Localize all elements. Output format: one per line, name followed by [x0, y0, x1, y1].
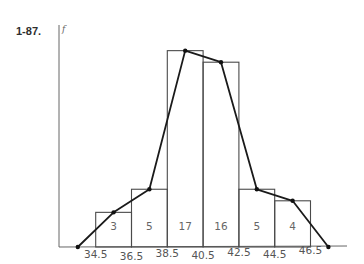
histogram-bar — [239, 189, 275, 247]
polygon-point-marker — [147, 187, 151, 191]
histogram-bar — [167, 51, 203, 247]
polygon-point-marker — [111, 210, 115, 214]
x-tick-label: 38.5 — [156, 247, 179, 259]
polygon-point-marker — [183, 48, 187, 52]
polygon-point-marker — [255, 187, 259, 191]
y-axis-label: f — [61, 24, 67, 34]
x-tick-label: 46.5 — [299, 244, 322, 256]
polygon-point-marker — [326, 245, 330, 249]
bar-frequency-label: 4 — [289, 220, 296, 232]
histogram-figure: 1-87. f 35171654 34.536.538.540.542.544.… — [0, 0, 364, 264]
polygon-point-marker — [290, 199, 294, 203]
bar-frequency-label: 5 — [146, 220, 153, 232]
x-tick-label: 36.5 — [120, 250, 143, 262]
x-tick-label: 34.5 — [84, 248, 107, 260]
bar-frequency-label: 17 — [179, 220, 192, 232]
x-tick-label: 44.5 — [263, 248, 286, 260]
bar-frequency-label: 16 — [214, 220, 228, 232]
histogram-bars — [96, 51, 311, 247]
x-tick-label: 42.5 — [227, 246, 250, 258]
figure-number: 1-87. — [16, 25, 41, 37]
polygon-point-marker — [76, 245, 80, 249]
polygon-point-marker — [219, 60, 223, 64]
bar-frequency-label: 3 — [110, 220, 117, 232]
bar-frequency-label: 5 — [253, 220, 260, 232]
x-tick-label: 40.5 — [191, 249, 214, 261]
